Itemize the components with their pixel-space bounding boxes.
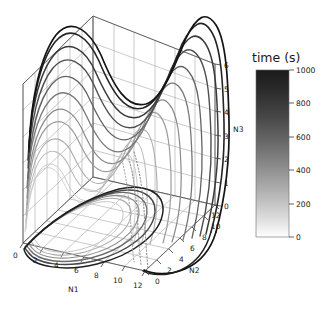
z-tick-3: 3 — [224, 132, 229, 141]
colorbar-tick-200: 200 — [296, 200, 311, 209]
x-tick-10: 10 — [113, 276, 123, 285]
z-tick-4: 4 — [224, 108, 229, 117]
colorbar-title: time (s) — [252, 50, 300, 65]
z-tick-6: 6 — [224, 61, 229, 70]
colorbar-tick-800: 800 — [296, 99, 311, 108]
y-tick-10: 10 — [211, 222, 221, 231]
y-tick-0: 0 — [155, 277, 160, 286]
x-axis-label: N1 — [68, 285, 79, 294]
y-tick-4: 4 — [179, 255, 184, 264]
x-tick-4: 4 — [54, 261, 59, 270]
z-tick-5: 5 — [224, 85, 229, 94]
y-tick-6: 6 — [190, 244, 195, 253]
y-tick-8: 8 — [202, 233, 207, 242]
x-tick-6: 6 — [74, 266, 79, 275]
z-tick-1: 1 — [224, 179, 229, 188]
y-axis-label: N2 — [189, 266, 200, 275]
z-tick-2: 2 — [224, 155, 229, 164]
colorbar-tick-0: 0 — [296, 233, 301, 242]
x-tick-8: 8 — [94, 271, 99, 280]
colorbar-gradient — [256, 70, 289, 237]
3d-phase-plot-figure: 0 1 2 3 4 5 6 N3 0 2 4 6 8 10 12 N1 0 2 … — [0, 0, 327, 333]
colorbar-tick-1000: 1000 — [296, 66, 315, 75]
y-tick-12: 12 — [211, 211, 220, 220]
colorbar-tick-600: 600 — [296, 133, 311, 142]
x-tick-2: 2 — [33, 256, 38, 265]
z-axis-label: N3 — [233, 125, 244, 134]
x-tick-12: 12 — [133, 281, 142, 290]
z-tick-0: 0 — [224, 202, 229, 211]
y-tick-2: 2 — [167, 266, 172, 275]
colorbar-tick-400: 400 — [296, 166, 311, 175]
x-tick-0: 0 — [13, 251, 18, 260]
